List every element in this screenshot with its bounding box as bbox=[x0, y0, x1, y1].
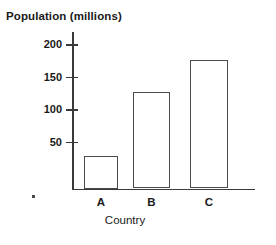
y-tick-label-100: 100 bbox=[44, 104, 62, 115]
y-tick-mark-150 bbox=[66, 77, 78, 79]
x-axis-title: Country bbox=[0, 214, 276, 226]
y-tick-label-50: 50 bbox=[50, 137, 62, 148]
y-tick-label-200: 200 bbox=[44, 39, 62, 50]
stray-speck-mark bbox=[32, 195, 35, 198]
y-tick-mark-100 bbox=[66, 109, 78, 111]
y-axis-line bbox=[72, 32, 74, 190]
plot-area: 200 150 100 50 A B C Country bbox=[0, 0, 276, 245]
y-tick-mark-200 bbox=[66, 44, 78, 46]
bar-country-c bbox=[190, 60, 228, 188]
x-tick-label-a: A bbox=[84, 196, 118, 208]
bar-chart-figure: Population (millions) 200 150 100 50 A B… bbox=[0, 0, 276, 245]
x-tick-label-c: C bbox=[190, 196, 228, 208]
x-tick-label-b: B bbox=[133, 196, 170, 208]
bar-country-a bbox=[84, 156, 118, 189]
x-axis-line bbox=[72, 189, 255, 191]
y-tick-label-150: 150 bbox=[44, 72, 62, 83]
bar-country-b bbox=[133, 92, 170, 188]
y-tick-mark-50 bbox=[66, 142, 78, 144]
